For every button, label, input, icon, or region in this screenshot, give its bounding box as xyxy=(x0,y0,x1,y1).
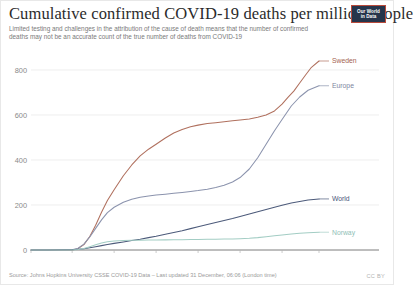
x-axis-tick-label: Apr 30 xyxy=(104,255,125,256)
y-axis-tick-label: 800 xyxy=(15,66,27,75)
license-label[interactable]: CC BY xyxy=(366,273,385,279)
source-note: Source: Johns Hopkins University CSSE CO… xyxy=(9,272,277,279)
series-line-sweden[interactable] xyxy=(31,61,319,250)
series-label-norway[interactable]: Norway xyxy=(332,229,356,237)
series-label-europe[interactable]: Europe xyxy=(332,82,354,90)
y-axis-tick-label: 0 xyxy=(23,246,27,255)
chart-subtitle: Limited testing and challenges in the at… xyxy=(9,25,309,41)
chart-footer: Source: Johns Hopkins University CSSE CO… xyxy=(9,272,385,279)
line-chart-svg: 0200400600800Jan 22, 2020Mar 11Apr 30Jun… xyxy=(1,46,395,256)
plot-area: 0200400600800Jan 22, 2020Mar 11Apr 30Jun… xyxy=(1,46,395,256)
series-label-sweden[interactable]: Sweden xyxy=(332,57,357,64)
logo-line-2: in Data xyxy=(361,14,377,19)
y-axis-tick-label: 600 xyxy=(15,111,27,120)
x-axis-tick-label: Sep 27 xyxy=(229,255,252,256)
x-axis-tick-label: Dec 30, 2020 xyxy=(334,255,377,256)
x-axis-tick-label: Jun 19 xyxy=(145,255,167,256)
page-title: Cumulative confirmed COVID-19 deaths per… xyxy=(9,4,385,23)
series-line-norway[interactable] xyxy=(31,232,319,250)
series-label-world[interactable]: World xyxy=(332,195,350,202)
y-axis-tick-label: 400 xyxy=(15,156,27,165)
y-axis-tick-label: 200 xyxy=(15,201,27,210)
series-line-world[interactable] xyxy=(31,199,319,250)
x-axis-tick-label: Jan 22, 2020 xyxy=(1,255,42,256)
x-axis-tick-label: Aug 8 xyxy=(189,255,208,256)
x-axis-tick-label: Mar 11 xyxy=(61,255,83,256)
our-world-in-data-logo[interactable]: Our World in Data xyxy=(351,5,386,23)
x-axis-tick-label: Nov 16 xyxy=(271,255,294,256)
chart-header: Cumulative confirmed COVID-19 deaths per… xyxy=(9,4,385,41)
